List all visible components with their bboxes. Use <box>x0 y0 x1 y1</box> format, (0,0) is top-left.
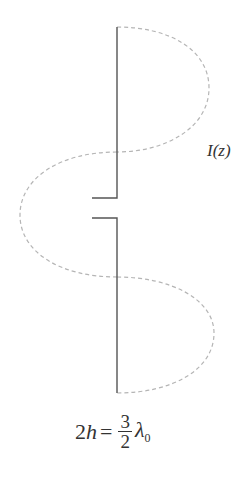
current-label: I(z) <box>207 141 231 161</box>
formula-lhs: 2h <box>75 419 97 445</box>
dipole-antenna <box>92 27 117 393</box>
formula-fraction: 3 2 <box>118 412 132 451</box>
upper-arm <box>92 27 117 198</box>
formula-equals: = <box>100 419 112 445</box>
fraction-denominator: 2 <box>118 432 132 451</box>
formula-variable: h <box>86 419 97 444</box>
current-lobe-top <box>117 27 209 152</box>
lambda-subscript: 0 <box>144 431 150 445</box>
fraction-numerator: 3 <box>118 412 132 432</box>
current-lobe-middle <box>20 152 117 277</box>
lower-arm <box>92 218 117 393</box>
formula-wavelength: λ0 <box>135 417 151 446</box>
formula-coefficient: 2 <box>75 419 86 444</box>
current-lobe-bottom <box>117 277 214 393</box>
dipole-diagram <box>0 0 251 478</box>
length-formula: 2h = 3 2 λ0 <box>75 412 150 451</box>
